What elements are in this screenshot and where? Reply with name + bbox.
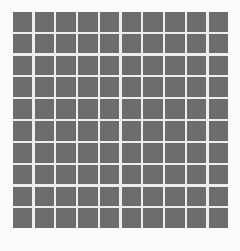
grid-cell — [56, 77, 75, 97]
grid-cell — [143, 208, 162, 228]
grid-cell — [100, 187, 119, 207]
grid-cell — [122, 12, 141, 32]
grid-cell — [78, 187, 97, 207]
grid-cell — [100, 143, 119, 163]
grid-cell — [35, 165, 54, 185]
grid-cell — [78, 12, 97, 32]
grid-cell — [13, 208, 32, 228]
grid-cell — [100, 56, 119, 76]
grid-cell — [209, 99, 228, 119]
grid-cell — [13, 77, 32, 97]
grid-cell — [165, 12, 184, 32]
grid-cell — [165, 77, 184, 97]
grid-cell — [187, 208, 206, 228]
grid-cell — [209, 143, 228, 163]
grid-cell — [143, 187, 162, 207]
grid-cell — [122, 77, 141, 97]
grid-cell — [143, 77, 162, 97]
grid-cell — [100, 121, 119, 141]
grid-cell — [35, 187, 54, 207]
grid-cell — [78, 143, 97, 163]
grid-cell — [56, 99, 75, 119]
grid-cell — [122, 165, 141, 185]
grid-cell — [122, 99, 141, 119]
grid-cell — [143, 165, 162, 185]
image-canvas — [0, 0, 240, 251]
grid-cell — [78, 208, 97, 228]
grid-cell — [56, 187, 75, 207]
grid-cell — [35, 143, 54, 163]
grid-cell — [165, 34, 184, 54]
grid-cell — [143, 56, 162, 76]
grid-cell — [35, 99, 54, 119]
grid-cell — [13, 12, 32, 32]
grid-cell — [35, 208, 54, 228]
grid-cell — [78, 34, 97, 54]
grid-cell — [187, 12, 206, 32]
grid-cell — [122, 187, 141, 207]
grid-cell — [13, 143, 32, 163]
grid-cell — [56, 143, 75, 163]
grid-cell — [209, 77, 228, 97]
grid-cell — [209, 56, 228, 76]
grid-cell — [100, 99, 119, 119]
grid-cell — [13, 34, 32, 54]
grid-cell — [100, 34, 119, 54]
grid-cell — [13, 165, 32, 185]
grid-cell — [100, 77, 119, 97]
grid-cell — [56, 56, 75, 76]
grid-cell — [143, 143, 162, 163]
grid-cell — [143, 99, 162, 119]
grid-cell — [78, 99, 97, 119]
grid-cell — [187, 121, 206, 141]
grid-cell — [165, 208, 184, 228]
grid-cell — [122, 56, 141, 76]
grid-cell — [56, 165, 75, 185]
grid-cell — [143, 34, 162, 54]
grid-cell — [35, 56, 54, 76]
grid-cell — [56, 34, 75, 54]
grid-cell — [165, 121, 184, 141]
grid-cell — [209, 34, 228, 54]
grid-cell — [122, 121, 141, 141]
grid-cell — [165, 99, 184, 119]
grid-cell — [165, 56, 184, 76]
square-grid — [13, 12, 228, 228]
grid-cell — [187, 187, 206, 207]
grid-cell — [100, 165, 119, 185]
grid-cell — [122, 143, 141, 163]
grid-cell — [122, 208, 141, 228]
grid-cell — [35, 34, 54, 54]
grid-cell — [187, 77, 206, 97]
grid-cell — [165, 143, 184, 163]
grid-cell — [13, 121, 32, 141]
grid-cell — [122, 34, 141, 54]
grid-cell — [209, 165, 228, 185]
grid-cell — [56, 121, 75, 141]
grid-cell — [56, 12, 75, 32]
grid-cell — [35, 77, 54, 97]
grid-cell — [209, 208, 228, 228]
grid-cell — [165, 187, 184, 207]
grid-cell — [187, 34, 206, 54]
grid-cell — [78, 56, 97, 76]
grid-cell — [100, 208, 119, 228]
grid-cell — [143, 12, 162, 32]
grid-cell — [187, 165, 206, 185]
grid-cell — [143, 121, 162, 141]
grid-cell — [13, 99, 32, 119]
grid-cell — [13, 187, 32, 207]
grid-cell — [187, 143, 206, 163]
grid-cell — [78, 121, 97, 141]
grid-cell — [35, 12, 54, 32]
grid-cell — [78, 165, 97, 185]
grid-cell — [187, 99, 206, 119]
grid-cell — [78, 77, 97, 97]
grid-cell — [209, 12, 228, 32]
grid-cell — [56, 208, 75, 228]
grid-cell — [35, 121, 54, 141]
grid-cell — [209, 187, 228, 207]
grid-cell — [13, 56, 32, 76]
grid-cell — [165, 165, 184, 185]
grid-cell — [187, 56, 206, 76]
